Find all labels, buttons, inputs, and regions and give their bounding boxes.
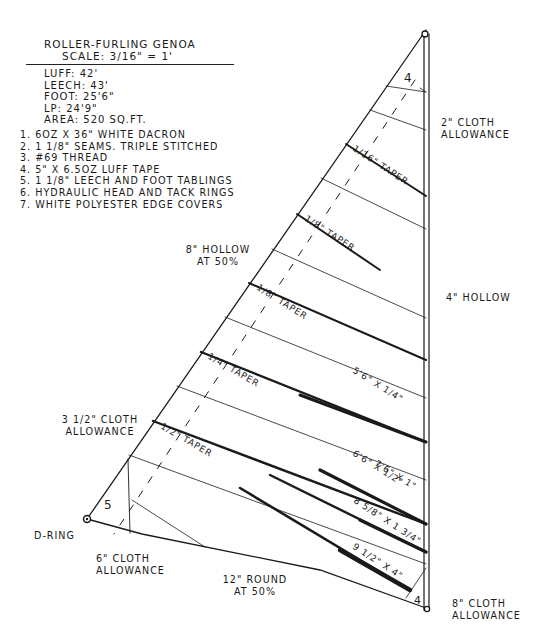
note-item: 5. 1 1/8" leech and foot tablings: [20, 175, 235, 187]
seam-label: 1/16" TAPER: [351, 143, 410, 186]
note-item: 3. #69 thread: [20, 152, 235, 164]
title-block: Roller-Furling Genoa Scale: 3/16" = 1': [44, 38, 196, 62]
spec-leech: Leech: 43': [44, 80, 147, 92]
tack-ring-icon: [424, 606, 429, 611]
note-item: 6. Hydraulic head and tack rings: [20, 187, 235, 199]
seam-label: 1/8" TAPER: [255, 282, 309, 321]
leech-hollow-label: 8" hollow at 50%: [178, 244, 258, 268]
spec-luff: Luff: 42': [44, 68, 147, 80]
drawing-scale: Scale: 3/16" = 1': [44, 50, 196, 62]
d-ring-label: D-ring: [34, 530, 75, 542]
spec-foot: Foot: 25'6": [44, 91, 147, 103]
title-divider: [26, 64, 234, 65]
head-ring-icon: [422, 31, 428, 37]
note-item: 4. 5" x 6.5oz luff tape: [20, 164, 235, 176]
spec-lp: LP: 24'9": [44, 103, 147, 115]
construction-notes: 1. 6oz x 36" white Dacron 2. 1 1/8" seam…: [20, 129, 235, 210]
luff-hollow-label: 4" hollow: [446, 292, 511, 304]
luff-seam-label: 5'6" X 1/4": [351, 365, 405, 404]
clew-cloth-allowance-label: 3 1/2" cloth allowance: [60, 414, 140, 438]
foot-round-label: 12" round at 50%: [220, 574, 290, 598]
sail-dimensions: Luff: 42' Leech: 43' Foot: 25'6" LP: 24'…: [44, 68, 147, 126]
clew-patch-number: 5: [104, 498, 112, 512]
seam-label: 1/8" TAPER: [303, 213, 357, 253]
foot-cloth-allowance-label: 6" cloth allowance: [96, 553, 176, 577]
head-cloth-allowance-label: 2" cloth allowance: [441, 117, 531, 141]
note-item: 2. 1 1/8" seams. Triple stitched: [20, 141, 235, 153]
drawing-title: Roller-Furling Genoa: [44, 38, 196, 50]
tack-cloth-allowance-label: 8" cloth allowance: [452, 598, 534, 622]
note-item: 7. White polyester edge covers: [20, 199, 235, 211]
note-item: 1. 6oz x 36" white Dacron: [20, 129, 235, 141]
luff-seam-label: 7'6" X 1": [373, 458, 418, 491]
spec-area: Area: 520 sq.ft.: [44, 114, 147, 126]
tack-patch-number: 4: [414, 594, 422, 607]
head-patch-number: 4: [404, 71, 412, 85]
